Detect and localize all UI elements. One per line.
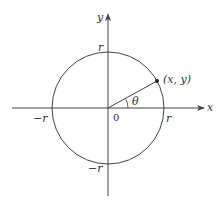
angle-arc [126, 98, 129, 108]
y-axis-label: y [97, 12, 103, 23]
point-marker [155, 79, 159, 83]
origin-label: 0 [113, 113, 119, 123]
circle-right-label: r [166, 113, 171, 124]
diagram-canvas [0, 0, 222, 208]
circle-bottom-label: −r [88, 163, 102, 174]
circle-left-label: −r [33, 113, 47, 124]
point-label: (x, y) [163, 74, 191, 85]
polar-coordinate-diagram: y x 0 r −r −r r (x, y) θ [0, 0, 222, 208]
circle-top-label: r [98, 42, 103, 53]
x-axis-label: x [207, 102, 213, 113]
angle-label: θ [132, 96, 139, 107]
